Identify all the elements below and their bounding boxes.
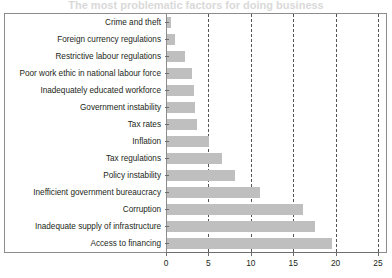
bar bbox=[167, 68, 192, 79]
y-tick bbox=[165, 243, 169, 244]
bar-row: Foreign currency regulations bbox=[167, 31, 379, 48]
bar-row: Tax rates bbox=[167, 116, 379, 133]
x-tick-label: 15 bbox=[289, 258, 298, 268]
bar-rows: Crime and theftForeign currency regulati… bbox=[167, 14, 379, 252]
category-label: Inadequate supply of infrastructure bbox=[35, 218, 165, 235]
x-tick bbox=[378, 252, 379, 256]
bar bbox=[167, 204, 303, 215]
bar-row: Corruption bbox=[167, 201, 379, 218]
bar bbox=[167, 136, 209, 147]
bar-row: Inadequate supply of infrastructure bbox=[167, 218, 379, 235]
bar bbox=[167, 170, 235, 181]
bar-row: Government instability bbox=[167, 99, 379, 116]
category-label: Tax regulations bbox=[106, 150, 165, 167]
x-tick bbox=[336, 252, 337, 256]
x-tick bbox=[208, 252, 209, 256]
bar bbox=[167, 119, 197, 130]
category-label: Restrictive labour regulations bbox=[55, 48, 165, 65]
bar bbox=[167, 102, 195, 113]
bar bbox=[167, 85, 194, 96]
category-label: Government instability bbox=[80, 99, 165, 116]
x-tick-label: 25 bbox=[373, 258, 382, 268]
x-tick bbox=[166, 252, 167, 256]
bar bbox=[167, 51, 185, 62]
bar bbox=[167, 221, 315, 232]
category-label: Inflation bbox=[132, 133, 165, 150]
y-tick bbox=[165, 192, 169, 193]
y-tick bbox=[165, 73, 169, 74]
bar-row: Poor work ethic in national labour force bbox=[167, 65, 379, 82]
category-label: Inadequately educated workforce bbox=[40, 82, 165, 99]
bar-row: Policy instability bbox=[167, 167, 379, 184]
bar bbox=[167, 238, 332, 249]
y-tick bbox=[165, 158, 169, 159]
y-tick bbox=[165, 39, 169, 40]
category-label: Tax rates bbox=[128, 116, 165, 133]
x-tick bbox=[251, 252, 252, 256]
bar-row: Crime and theft bbox=[167, 14, 379, 31]
y-tick bbox=[165, 124, 169, 125]
category-label: Crime and theft bbox=[105, 14, 165, 31]
y-tick bbox=[165, 209, 169, 210]
bar-row: Access to financing bbox=[167, 235, 379, 252]
x-tick bbox=[293, 252, 294, 256]
y-tick bbox=[165, 226, 169, 227]
x-tick-label: 5 bbox=[206, 258, 211, 268]
x-tick-label: 10 bbox=[246, 258, 255, 268]
bar bbox=[167, 187, 260, 198]
bar-row: Inefficient government bureaucracy bbox=[167, 184, 379, 201]
y-tick bbox=[165, 107, 169, 108]
bar bbox=[167, 153, 222, 164]
x-tick-label: 20 bbox=[331, 258, 340, 268]
category-label: Foreign currency regulations bbox=[57, 31, 165, 48]
x-axis-line bbox=[166, 252, 378, 253]
category-label: Poor work ethic in national labour force bbox=[19, 65, 165, 82]
category-label: Corruption bbox=[123, 201, 165, 218]
y-tick bbox=[165, 175, 169, 176]
bar-row: Tax regulations bbox=[167, 150, 379, 167]
category-label: Inefficient government bureaucracy bbox=[33, 184, 165, 201]
x-tick-label: 0 bbox=[164, 258, 169, 268]
y-tick bbox=[165, 56, 169, 57]
chart-title-clipped: The most problematic factors for doing b… bbox=[0, 0, 392, 11]
y-tick bbox=[165, 90, 169, 91]
chart-figure: The most problematic factors for doing b… bbox=[0, 0, 392, 278]
category-label: Policy instability bbox=[103, 167, 165, 184]
y-tick bbox=[165, 22, 169, 23]
y-tick bbox=[165, 141, 169, 142]
category-label: Access to financing bbox=[90, 235, 165, 252]
bar-row: Inadequately educated workforce bbox=[167, 82, 379, 99]
bar-row: Inflation bbox=[167, 133, 379, 150]
bar-row: Restrictive labour regulations bbox=[167, 48, 379, 65]
